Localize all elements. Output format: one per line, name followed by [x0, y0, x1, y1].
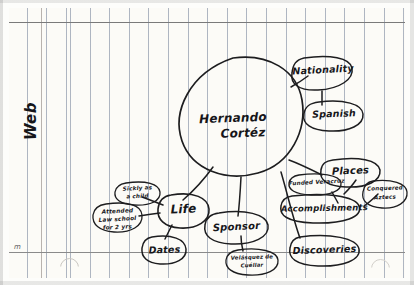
node-label-accomplishments: Accomplishments: [281, 203, 359, 213]
page-label-web: Web: [22, 80, 40, 140]
node-label-life: Life: [158, 202, 209, 216]
connector-funded-accomplishments: [332, 192, 338, 203]
node-label-places: Places: [321, 165, 380, 178]
connector-center-places: [289, 160, 322, 175]
connector-center-sponsor: [238, 177, 241, 216]
center-label-line1: Hernando: [186, 110, 280, 126]
connector-center-life: [183, 167, 213, 200]
corner-mark: m: [14, 243, 21, 251]
node-label-spanish: Spanish: [304, 108, 364, 120]
notebook-page-photo: Hernando Cortéz Nationality Spanish Plac…: [0, 0, 414, 285]
node-label-dates: Dates: [142, 244, 187, 256]
